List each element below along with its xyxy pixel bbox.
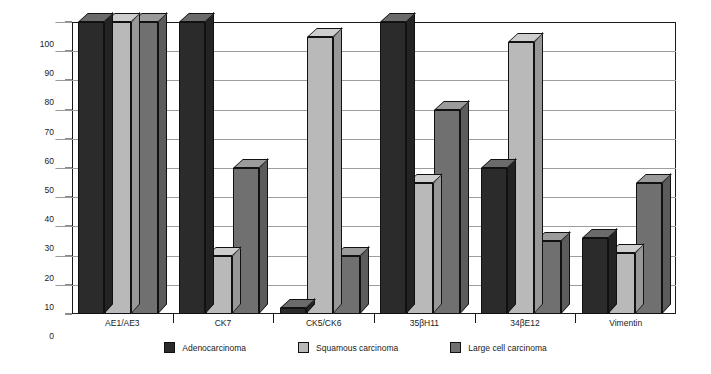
bar-side-face <box>608 228 617 314</box>
category-separator-tick <box>475 314 476 323</box>
y-axis-tick-label: 0 <box>28 331 54 341</box>
legend-swatch <box>450 342 461 353</box>
bar-front-face <box>280 308 306 314</box>
bar <box>280 308 306 314</box>
bar-side-face <box>433 173 442 314</box>
y-axis-tick-label: 10 <box>28 302 54 312</box>
bar-side-face <box>534 32 543 314</box>
category-separator-tick <box>575 314 576 323</box>
bar-side-face <box>406 12 415 314</box>
plot-area: 1009080706050403020100 <box>72 22 676 314</box>
bar <box>481 168 507 314</box>
x-axis-category-label: 34βE12 <box>510 318 539 328</box>
bar-side-face <box>205 12 214 314</box>
bar <box>582 238 608 314</box>
bar <box>78 22 104 314</box>
bar-side-face <box>131 12 140 314</box>
y-axis-tick-mark <box>65 314 72 315</box>
category-separator-tick <box>173 314 174 323</box>
bar-side-face <box>662 173 671 314</box>
x-axis-category-label: AE1/AE3 <box>105 318 140 328</box>
bar-side-face <box>333 27 342 314</box>
legend-item: Adenocarcinoma <box>164 342 246 353</box>
bar <box>380 22 406 314</box>
chart-legend: AdenocarcinomaSquamous carcinomaLarge ce… <box>0 342 711 353</box>
bar-side-face <box>460 100 469 314</box>
x-axis-category-label: CK7 <box>215 318 232 328</box>
legend-swatch <box>298 342 309 353</box>
bar-front-face <box>582 238 608 314</box>
bar-front-face <box>179 22 205 314</box>
bar-front-face <box>481 168 507 314</box>
legend-item: Large cell carcinoma <box>450 342 546 353</box>
bar-side-face <box>259 158 268 314</box>
x-axis-category-label: CK5/CK6 <box>306 318 341 328</box>
legend-label: Squamous carcinoma <box>316 343 398 353</box>
bar-front-face <box>307 37 333 314</box>
legend-swatch <box>164 342 175 353</box>
bar-side-face <box>507 158 516 314</box>
bar-front-face <box>78 22 104 314</box>
x-axis-category-label: 35βH11 <box>410 318 439 328</box>
bar-front-face <box>380 22 406 314</box>
legend-item: Squamous carcinoma <box>298 342 398 353</box>
category-separator-tick <box>273 314 274 323</box>
category-separator-tick <box>374 314 375 323</box>
x-axis-category-label: Vimentin <box>609 318 642 328</box>
legend-label: Large cell carcinoma <box>468 343 546 353</box>
bar-side-face <box>104 12 113 314</box>
legend-label: Adenocarcinoma <box>182 343 246 353</box>
tick-depth-connector <box>39 8 72 23</box>
bar-side-face <box>635 243 644 314</box>
bar-side-face <box>232 246 241 314</box>
bar-side-face <box>360 246 369 314</box>
bar <box>307 37 333 314</box>
bar <box>179 22 205 314</box>
bar-chart: Percent positive 1009080706050403020100 … <box>0 0 711 374</box>
bar-side-face <box>561 231 570 314</box>
bar-side-face <box>158 12 167 314</box>
